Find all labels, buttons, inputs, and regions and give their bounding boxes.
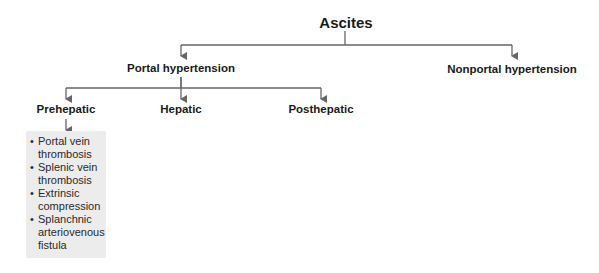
node-posthepatic: Posthepatic [288, 103, 353, 115]
node-portal-hypertension: Portal hypertension [127, 62, 235, 74]
prehepatic-causes-box: Portal vein thrombosis Splenic vein thro… [26, 131, 106, 258]
prehepatic-causes-list: Portal vein thrombosis Splenic vein thro… [30, 135, 106, 252]
node-ascites: Ascites [319, 14, 372, 31]
node-hepatic: Hepatic [160, 103, 202, 115]
node-nonportal-hypertension: Nonportal hypertension [447, 63, 577, 75]
cause-item: Extrinsic compression [30, 187, 106, 213]
cause-item: Splanchnic arteriovenous fistula [30, 213, 106, 252]
cause-item: Splenic vein thrombosis [30, 161, 106, 187]
node-prehepatic: Prehepatic [37, 103, 96, 115]
cause-item: Portal vein thrombosis [30, 135, 106, 161]
